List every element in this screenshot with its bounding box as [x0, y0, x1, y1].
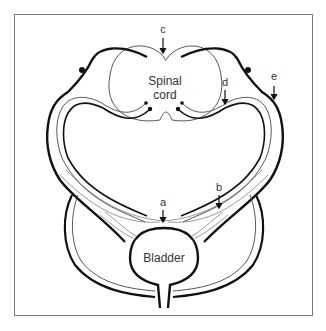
right-outer-nerve-thin — [173, 195, 256, 291]
right-ganglion-dot — [245, 67, 251, 73]
label-c: c — [160, 23, 166, 35]
arrow-a-icon — [160, 210, 166, 222]
left-dorsal-nerve — [47, 48, 147, 242]
arrow-c-icon — [160, 38, 166, 53]
label-a: a — [160, 196, 167, 208]
arrow-d-icon — [222, 90, 228, 104]
diagram-canvas: Spinal cord Bladder c d e a b — [0, 0, 326, 331]
left-ventral-dot-2 — [148, 107, 152, 111]
left-ganglion-dot — [79, 67, 85, 73]
right-ventral-dot-2 — [176, 107, 180, 111]
left-ventral-dot-1 — [144, 101, 148, 105]
arrow-e-icon — [271, 86, 277, 99]
label-d: d — [222, 76, 228, 88]
label-b: b — [216, 181, 222, 193]
spinal-cord-label-line1: Spinal — [148, 74, 181, 88]
spinal-cord-label-line2: cord — [153, 88, 176, 102]
right-ventral-nerve-outer — [183, 97, 271, 222]
right-ventral-dot-1 — [180, 101, 184, 105]
label-e: e — [271, 70, 277, 82]
right-dorsal-nerve — [181, 48, 283, 242]
left-outer-nerve-thin — [72, 195, 155, 291]
left-ventral-nerve-outer — [57, 97, 145, 222]
bladder-label: Bladder — [143, 251, 184, 265]
